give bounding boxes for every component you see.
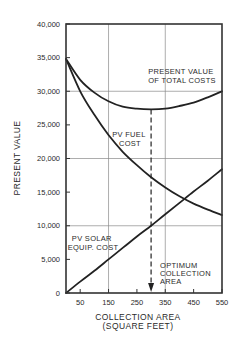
gridlines	[66, 24, 222, 293]
x-axis-ticks: 50150250350450550	[76, 289, 228, 307]
y-tick-label: 25,000	[37, 120, 60, 129]
y-tick-label: 20,000	[37, 154, 60, 163]
x-axis-subtitle: (SQUARE FEET)	[103, 321, 174, 331]
solar-equip-cost-label: PV SOLAR EQUIP. COST	[68, 234, 119, 252]
total-cost-label: PRESENT VALUE OF TOTAL COSTS	[148, 67, 216, 85]
y-tick-label: 15,000	[37, 188, 60, 197]
optimum-area-label: OPTIMUM COLLECTION AREA	[160, 261, 213, 286]
y-tick-label: 40,000	[37, 20, 60, 29]
y-tick-label: 30,000	[37, 87, 60, 96]
y-axis-title: PRESENT VALUE	[12, 121, 22, 196]
x-tick-label: 250	[131, 298, 144, 307]
x-tick-label: 50	[76, 298, 84, 307]
x-tick-label: 450	[187, 298, 200, 307]
x-tick-label: 350	[159, 298, 172, 307]
chart: 05,00010,00015,00020,00025,00030,00035,0…	[0, 0, 241, 343]
data-series	[66, 59, 222, 293]
y-tick-label: 0	[56, 289, 60, 298]
y-axis-ticks: 05,00010,00015,00020,00025,00030,00035,0…	[37, 20, 70, 298]
arrow-down-icon	[148, 283, 154, 292]
x-tick-label: 550	[216, 298, 229, 307]
y-tick-label: 5,000	[41, 255, 60, 264]
y-tick-label: 35,000	[37, 53, 60, 62]
x-tick-label: 150	[102, 298, 115, 307]
y-tick-label: 10,000	[37, 221, 60, 230]
